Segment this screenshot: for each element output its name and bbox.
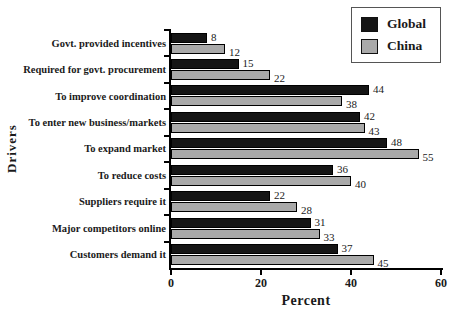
value-label: 31 (315, 216, 326, 228)
value-label: 44 (373, 83, 384, 95)
y-axis-tick (164, 188, 169, 190)
x-axis-tick-label: 0 (156, 276, 186, 291)
value-label: 22 (274, 72, 285, 84)
value-label: 40 (355, 178, 366, 190)
plot-area: 81215224438424348553640222831333745 (171, 30, 441, 268)
category-label: To expand market (16, 136, 166, 162)
china-bar (171, 149, 419, 159)
y-axis-tick (164, 108, 169, 110)
global-bar (171, 138, 387, 148)
value-label: 37 (342, 242, 353, 254)
category-label: To reduce costs (16, 162, 166, 188)
china-series-swatch (361, 39, 378, 54)
legend-label-global: Global (387, 16, 426, 32)
x-axis-tick-label: 40 (336, 276, 366, 291)
value-label: 33 (324, 231, 335, 243)
x-axis-tick-label: 60 (426, 276, 456, 291)
global-bar (171, 59, 239, 69)
global-bar (171, 244, 338, 254)
value-label: 22 (274, 189, 285, 201)
x-axis-tick (440, 270, 442, 275)
global-bar (171, 218, 311, 228)
value-label: 28 (301, 204, 312, 216)
category-label: Major competitors online (16, 215, 166, 241)
china-bar (171, 202, 297, 212)
china-bar (171, 123, 365, 133)
value-label: 55 (423, 151, 434, 163)
global-bar (171, 165, 333, 175)
global-series-swatch (361, 17, 378, 32)
value-label: 8 (211, 31, 217, 43)
legend-label-china: China (387, 38, 422, 54)
x-axis-tick (170, 270, 172, 275)
china-bar (171, 176, 351, 186)
y-axis-tick (164, 135, 169, 137)
legend: Global China (351, 7, 441, 63)
category-label: Suppliers require it (16, 189, 166, 215)
legend-item-global: Global (361, 16, 440, 32)
y-axis-tick (164, 241, 169, 243)
value-label: 12 (229, 46, 240, 58)
bar-chart-figure: Drivers 81215224438424348553640222831333… (0, 0, 461, 320)
global-bar (171, 85, 369, 95)
y-axis-tick (164, 82, 169, 84)
x-axis-title: Percent (171, 293, 441, 309)
value-label: 45 (378, 257, 389, 269)
value-label: 15 (243, 57, 254, 69)
category-label: Required for govt. procurement (16, 56, 166, 82)
y-axis-tick (164, 29, 169, 31)
value-label: 42 (364, 110, 375, 122)
category-label: Govt. provided incentives (16, 30, 166, 56)
china-bar (171, 255, 374, 265)
x-axis-line (169, 268, 443, 270)
global-bar (171, 33, 207, 43)
legend-item-china: China (361, 38, 440, 54)
category-label: Customers demand it (16, 242, 166, 268)
china-bar (171, 44, 225, 54)
global-bar (171, 112, 360, 122)
china-bar (171, 96, 342, 106)
x-axis-tick-label: 20 (246, 276, 276, 291)
category-label: To improve coordination (16, 83, 166, 109)
china-bar (171, 229, 320, 239)
y-axis-tick (164, 161, 169, 163)
value-label: 38 (346, 98, 357, 110)
y-axis-tick (164, 55, 169, 57)
y-axis-tick (164, 214, 169, 216)
value-label: 48 (391, 136, 402, 148)
china-bar (171, 70, 270, 80)
x-axis-tick (350, 270, 352, 275)
value-label: 43 (369, 125, 380, 137)
value-label: 36 (337, 163, 348, 175)
global-bar (171, 191, 270, 201)
x-axis-tick (260, 270, 262, 275)
category-label: To enter new business/markets (16, 109, 166, 135)
